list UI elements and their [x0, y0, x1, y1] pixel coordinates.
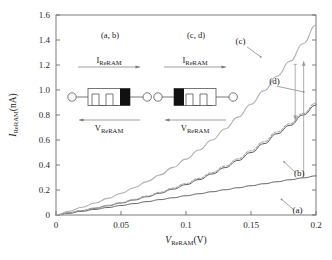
- inset-cd-polarity-bar: [174, 89, 184, 106]
- arrow-up-head: [302, 61, 306, 66]
- x-tick-label: 0.1: [180, 220, 191, 230]
- inset-ab-terminal-left: [68, 93, 76, 101]
- inset-cd-current-arrow-head: [222, 65, 227, 68]
- x-axis-title: VReRAM(V): [165, 235, 206, 246]
- y-axis-ticks: 00.20.40.60.81.01.21.41.6: [39, 10, 316, 220]
- y-tick-label: 1.4: [39, 35, 51, 45]
- label-b: (b): [294, 168, 305, 178]
- inset-cd-terminal-right: [229, 93, 237, 101]
- y-tick-label: 1.6: [39, 10, 51, 20]
- x-tick-label: 0.05: [113, 220, 129, 230]
- label-d: (d): [269, 76, 280, 86]
- x-axis-subscript: ReRAM: [171, 239, 193, 246]
- inset-ab-polarity-bar: [120, 89, 130, 106]
- inset-cd-terminal-left: [154, 93, 162, 101]
- inset-ab-caption: (a, b): [101, 30, 119, 40]
- y-tick-label: 0.4: [39, 160, 51, 170]
- inset-cd-caption: (c, d): [187, 30, 205, 40]
- svg-text:IReRAM(nA): IReRAM(nA): [8, 93, 19, 137]
- curve-a: [56, 176, 316, 215]
- y-axis-title: IReRAM(nA): [8, 93, 19, 137]
- iv-characteristic-chart: 00.050.10.150.2 00.20.40.60.81.01.21.41.…: [0, 0, 332, 260]
- label-a: (a): [293, 205, 303, 215]
- x-axis-unit: (V): [193, 235, 206, 246]
- label-d-leader: [277, 86, 304, 92]
- x-axis-ticks: 00.050.10.150.2: [54, 211, 322, 230]
- svg-text:VReRAM(V): VReRAM(V): [165, 235, 206, 246]
- inset-cd-voltage-label: VReRAM: [181, 123, 210, 134]
- y-tick-label: 0.6: [39, 135, 51, 145]
- x-tick-label: 0.2: [310, 220, 321, 230]
- inset-ab-terminal-right: [143, 93, 151, 101]
- y-tick-label: 0.8: [39, 110, 51, 120]
- inset-ab: (a, b) IReRAM VReRAM: [68, 30, 152, 134]
- transition-arrows: [293, 61, 305, 177]
- label-c-leader: [247, 47, 261, 57]
- figure-container: 00.050.10.150.2 00.20.40.60.81.01.21.41.…: [0, 0, 332, 260]
- y-axis-subscript: ReRAM: [12, 111, 19, 133]
- y-axis-unit: (nA): [8, 93, 19, 111]
- inset-ab-voltage-label: VReRAM: [95, 123, 124, 134]
- y-tick-label: 0.2: [39, 185, 50, 195]
- inset-cd: (c, d) IReRAM VReRAM: [154, 30, 238, 134]
- y-tick-label: 0: [46, 210, 51, 220]
- y-tick-label: 1.2: [39, 60, 50, 70]
- y-tick-label: 1.0: [39, 85, 51, 95]
- label-c: (c): [235, 36, 245, 46]
- x-tick-label: 0.15: [243, 220, 259, 230]
- curve-b: [56, 105, 316, 215]
- inset-cd-voltage-arrow-head: [165, 118, 170, 121]
- curve-labels: (a)(b)(c)(d): [235, 36, 304, 215]
- x-tick-label: 0: [54, 220, 59, 230]
- inset-ab-current-label: IReRAM: [96, 55, 121, 66]
- inset-ab-current-arrow-head: [136, 65, 141, 68]
- inset-cd-current-label: IReRAM: [182, 55, 207, 66]
- inset-ab-voltage-arrow-head: [79, 118, 84, 121]
